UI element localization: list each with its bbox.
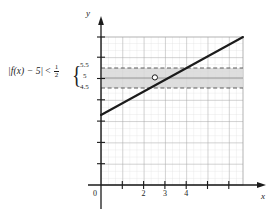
origin-tick-label: 0 [88, 190, 102, 198]
inequality-annotation: |f(x) − 5| < 1 2 [8, 64, 60, 80]
y-axis-label: y [86, 9, 90, 18]
graph-figure: y x 0 2 3 4 5.5 5 4.5 { |f(x) − 5| < 1 2 [0, 0, 275, 218]
x-tick-label-3: 3 [158, 190, 172, 198]
inequality-lhs: |f(x) − 5| [8, 67, 43, 77]
open-circle-marker [152, 75, 157, 80]
grid-major [101, 37, 243, 185]
brace-glyph: { [72, 62, 81, 88]
fraction-numerator: 1 [54, 64, 60, 71]
inequality-relation: < [45, 67, 50, 77]
x-tick-label-2: 2 [137, 190, 151, 198]
band-label-center: 5 [83, 73, 87, 80]
x-axis-label: x [261, 192, 265, 201]
fraction-denominator: 2 [54, 71, 60, 79]
x-tick-label-4: 4 [179, 190, 193, 198]
one-half-fraction: 1 2 [54, 64, 60, 80]
graph-canvas [0, 0, 275, 218]
